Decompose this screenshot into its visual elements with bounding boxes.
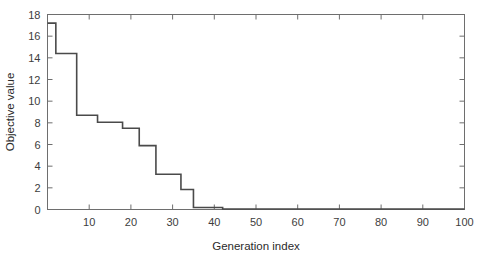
x-tick-label: 50 [250,216,262,228]
objective-value-curve [48,23,465,209]
y-axis-ticks [48,15,465,210]
y-tick-label: 4 [34,160,40,172]
x-tick-label: 30 [166,216,178,228]
x-axis-tick-labels: 102030405060708090100 [83,216,474,228]
x-tick-label: 20 [125,216,137,228]
x-tick-label: 40 [208,216,220,228]
y-tick-label: 2 [34,182,40,194]
x-axis-ticks [48,15,465,210]
axes-box [48,15,465,210]
y-tick-label: 8 [34,117,40,129]
y-tick-label: 6 [34,139,40,151]
y-tick-label: 16 [28,30,40,42]
x-tick-label: 100 [455,216,473,228]
y-tick-label: 14 [28,52,40,64]
y-tick-label: 18 [28,9,40,21]
figure-container: 024681012141618 102030405060708090100 Ge… [0,0,482,265]
x-tick-label: 70 [333,216,345,228]
y-tick-label: 0 [34,204,40,216]
x-tick-label: 10 [83,216,95,228]
y-tick-label: 10 [28,95,40,107]
plot-frame [48,15,465,210]
y-tick-label: 12 [28,74,40,86]
objective-value-step-chart: 024681012141618 102030405060708090100 Ge… [0,0,482,265]
x-tick-label: 60 [292,216,304,228]
x-tick-label: 90 [417,216,429,228]
y-axis-tick-labels: 024681012141618 [28,9,40,216]
y-axis-label: Objective value [4,73,16,152]
x-axis-label: Generation index [212,240,300,252]
caption-strip [0,255,482,265]
x-tick-label: 80 [375,216,387,228]
